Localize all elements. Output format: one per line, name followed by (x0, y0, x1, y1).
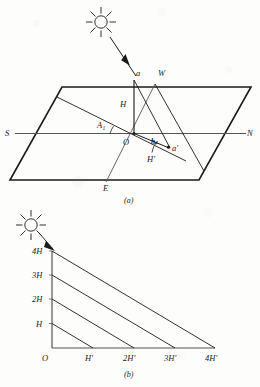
figure-root: a W H S N A₁ O hₛ a′ H′ E (a) (0, 0, 260, 387)
x-tick-label-4H: 4H′ (205, 353, 217, 363)
shadow-line-1H (52, 324, 93, 349)
y-tick-label-4H: 4H (32, 246, 43, 256)
panel-a: a W H S N A₁ O hₛ a′ H′ E (a) (5, 7, 254, 205)
y-tick-label-3H: 3H (31, 270, 43, 280)
caption-panel-b: (b) (124, 370, 134, 379)
shadow-tip-marker (167, 146, 170, 149)
label-south: S (5, 128, 10, 138)
x-tick-label-1H: H′ (84, 353, 93, 363)
origin-label: O (42, 353, 48, 363)
label-origin: O (123, 137, 129, 147)
y-tick-label-1H: H (35, 319, 43, 329)
origin-marker (133, 132, 136, 135)
label-azimuth-angle: A₁ (96, 120, 105, 130)
label-altitude-angle: hₛ (151, 137, 159, 146)
sun-ray-arrow (110, 37, 136, 76)
panel-b: H 2H 3H 4H O H′ 2H′ 3H′ 4H′ (b) (16, 210, 217, 379)
caption-panel-a: (a) (124, 196, 134, 205)
label-north: N (246, 128, 254, 138)
shadow-line-4H (52, 251, 215, 348)
sun-icon (86, 7, 116, 37)
label-shadow-length: H′ (146, 154, 155, 164)
shadow-line-2H (52, 299, 134, 348)
label-gnomon-top: a (136, 68, 140, 78)
x-tick-label-3H: 3H′ (163, 353, 176, 363)
label-shadow-tip: a′ (172, 143, 178, 153)
shadow-line-3H (52, 275, 175, 348)
label-west: W (158, 68, 166, 78)
azimuth-angle-arc (110, 126, 114, 133)
y-tick-label-2H: 2H (32, 294, 43, 304)
label-gnomon-height: H (119, 99, 127, 109)
x-tick-label-2H: 2H′ (123, 353, 135, 363)
label-east: E (102, 183, 109, 193)
